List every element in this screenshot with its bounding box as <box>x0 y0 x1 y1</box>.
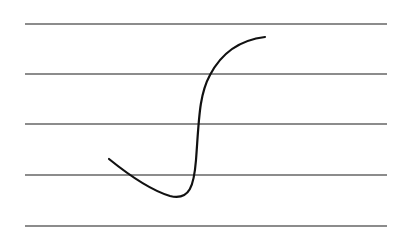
integral-stroke <box>109 37 265 197</box>
staff-lines <box>25 24 387 226</box>
staff-drawing <box>0 0 408 244</box>
